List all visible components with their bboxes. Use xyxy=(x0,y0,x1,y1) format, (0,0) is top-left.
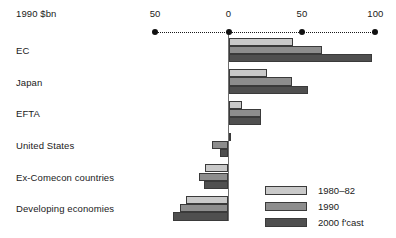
horizontal-bar-chart: 1990 $bn 50050100 ECJapanEFTAUnited Stat… xyxy=(0,0,396,238)
axis-tick-dot xyxy=(299,29,305,35)
bar xyxy=(229,109,261,117)
bar xyxy=(229,86,308,94)
axis-dotted-line xyxy=(155,32,375,33)
bar xyxy=(205,164,228,172)
bar xyxy=(180,204,228,212)
bar xyxy=(229,54,373,62)
bar xyxy=(199,173,228,181)
legend-swatch xyxy=(265,218,307,227)
bar xyxy=(220,149,229,157)
axis-tick-label: 50 xyxy=(297,8,308,19)
category-label: EC xyxy=(16,44,29,55)
bar xyxy=(229,38,294,46)
bar xyxy=(229,46,323,54)
bar xyxy=(173,212,229,220)
category-label: EFTA xyxy=(16,108,40,119)
bar xyxy=(186,196,229,204)
axis-tick-dot xyxy=(372,29,378,35)
legend-label: 2000 f'cast xyxy=(318,217,364,228)
bar xyxy=(229,133,231,141)
legend-swatch xyxy=(265,186,307,195)
axis-tick-label: 100 xyxy=(367,8,383,19)
bar xyxy=(212,141,228,149)
category-label: Developing economies xyxy=(16,203,114,214)
bar xyxy=(229,117,261,125)
bar xyxy=(229,101,242,109)
axis-tick-dot xyxy=(152,29,158,35)
bar xyxy=(229,77,292,85)
axis-tick-label: 50 xyxy=(150,8,161,19)
legend-label: 1990 xyxy=(318,201,339,212)
bar xyxy=(204,181,229,189)
axis-tick-label: 0 xyxy=(226,8,231,19)
category-label: Ex-Comecon countries xyxy=(16,171,114,182)
axis-tick-dot xyxy=(226,29,232,35)
unit-label: 1990 $bn xyxy=(16,8,56,19)
category-label: United States xyxy=(16,139,74,150)
legend-label: 1980–82 xyxy=(318,185,355,196)
bar xyxy=(229,69,267,77)
category-label: Japan xyxy=(16,76,42,87)
legend-swatch xyxy=(265,202,307,211)
